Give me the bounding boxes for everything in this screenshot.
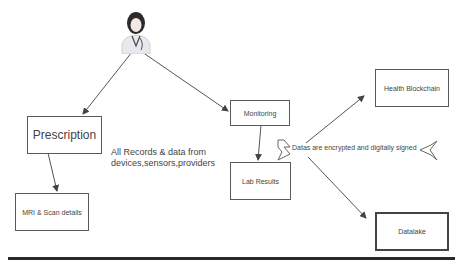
lab-results-node: Lab Results xyxy=(230,162,291,200)
prescription-node: Prescription xyxy=(27,116,102,154)
datalake-node: Datalake xyxy=(375,212,449,251)
doctor-avatar-icon xyxy=(118,10,154,54)
monitoring-label: Monitoring xyxy=(244,110,277,117)
prescription-label: Prescription xyxy=(33,128,96,142)
mri-scan-node: MRI & Scan details xyxy=(15,193,89,231)
monitoring-node: Monitoring xyxy=(230,100,290,126)
encryption-annotation: Datas are encrypted and digitally signed xyxy=(291,144,418,151)
datalake-label: Datalake xyxy=(398,228,426,235)
bottom-divider xyxy=(8,257,455,260)
records-annotation: All Records & data from devices,sensors,… xyxy=(111,147,215,169)
records-line-1: All Records & data from xyxy=(111,147,215,158)
health-blockchain-node: Health Blockchain xyxy=(375,69,449,107)
lab-results-label: Lab Results xyxy=(242,178,279,185)
records-line-2: devices,sensors,providers xyxy=(111,158,215,169)
health-blockchain-label: Health Blockchain xyxy=(384,85,440,92)
mri-scan-label: MRI & Scan details xyxy=(22,209,82,216)
